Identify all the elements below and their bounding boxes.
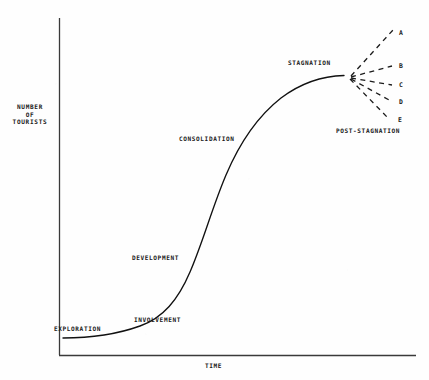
stage-label-exploration: EXPLORATION <box>54 325 101 333</box>
x-axis-title: TIME <box>205 362 222 370</box>
outcome-line-c <box>351 78 392 85</box>
y-axis-title-line-3: TOURISTS <box>6 118 54 126</box>
outcome-line-b <box>351 66 392 77</box>
outcome-line-e <box>350 79 389 119</box>
stage-label-stagnation: STAGNATION <box>288 59 331 67</box>
chart-canvas <box>0 0 429 380</box>
talc-curve <box>63 76 344 339</box>
y-axis-title-line-1: NUMBER <box>6 103 54 111</box>
post-stagnation-fan <box>350 30 393 119</box>
stage-label-development: DEVELOPMENT <box>132 254 179 262</box>
outcome-letter-b: B <box>399 62 403 70</box>
y-axis-title: NUMBER OF TOURISTS <box>6 103 54 126</box>
outcome-letter-a: A <box>399 29 403 37</box>
outcome-letter-d: D <box>399 98 403 106</box>
stage-label-post-stagnation: POST-STAGNATION <box>336 127 400 135</box>
stage-label-involvement: INVOLVEMENT <box>134 316 181 324</box>
stage-label-consolidation: CONSOLIDATION <box>179 135 235 143</box>
outcome-line-d <box>351 79 391 101</box>
outcome-letter-c: C <box>399 81 403 89</box>
y-axis-title-line-2: OF <box>6 111 54 119</box>
outcome-line-a <box>351 30 393 76</box>
outcome-letter-e: E <box>398 116 402 124</box>
talc-model-figure: NUMBER OF TOURISTS TIME EXPLORATION INVO… <box>0 0 429 380</box>
